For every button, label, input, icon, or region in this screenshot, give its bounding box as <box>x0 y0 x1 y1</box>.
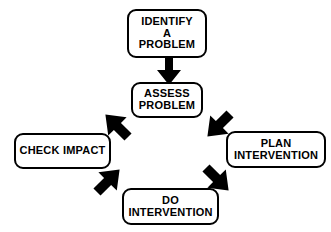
node-check-impact[interactable]: CHECK IMPACT <box>14 133 111 169</box>
node-assess-problem[interactable]: ASSESS PROBLEM <box>131 82 203 118</box>
node-identify-a-problem[interactable]: IDENTIFY A PROBLEM <box>127 9 207 58</box>
node-plan-intervention[interactable]: PLAN INTERVENTION <box>226 131 326 168</box>
node-do-intervention[interactable]: DO INTERVENTION <box>122 188 219 225</box>
node-label-line: IDENTIFY <box>141 16 193 28</box>
node-label-line: PLAN <box>261 138 292 150</box>
flowchart-canvas: IDENTIFY A PROBLEM ASSESS PROBLEM PLAN I… <box>0 0 331 232</box>
node-label-line: DO <box>162 195 179 207</box>
node-label-line: INTERVENTION <box>128 207 212 219</box>
node-label-line: CHECK IMPACT <box>20 145 106 157</box>
node-label-line: INTERVENTION <box>234 150 318 162</box>
node-label-line: PROBLEM <box>139 100 195 112</box>
node-label-line: PROBLEM <box>139 39 195 51</box>
